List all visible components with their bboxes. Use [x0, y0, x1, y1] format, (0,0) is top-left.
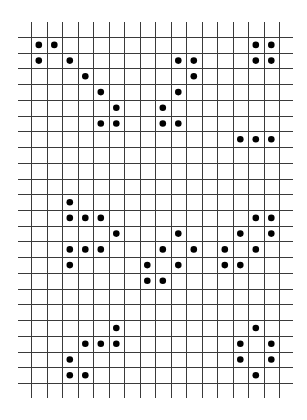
cell-dot — [160, 120, 167, 127]
cell-dot — [191, 246, 198, 253]
cell-dot — [268, 356, 275, 363]
cell-dot — [67, 215, 74, 222]
cell-dot — [191, 73, 198, 80]
cell-dot — [222, 262, 229, 269]
cell-dot — [175, 120, 182, 127]
cell-dot — [113, 325, 120, 332]
cell-dot — [253, 246, 260, 253]
cell-dot — [113, 105, 120, 112]
cell-dot — [98, 340, 105, 347]
cell-dot — [82, 73, 89, 80]
cell-dot — [222, 246, 229, 253]
pattern-top-right-block — [253, 42, 275, 64]
cell-dot — [67, 246, 74, 253]
cell-dot — [175, 57, 182, 64]
cell-dot — [160, 246, 167, 253]
cell-dot — [253, 42, 260, 49]
dot-grid-diagram — [0, 0, 307, 420]
cell-dot — [36, 57, 43, 64]
cell-dot — [67, 262, 74, 269]
cell-dot — [160, 105, 167, 112]
cell-dot — [237, 356, 244, 363]
cell-dot — [67, 356, 74, 363]
cell-dot — [82, 372, 89, 379]
cell-dot — [268, 42, 275, 49]
cell-dot — [253, 57, 260, 64]
cell-dot — [268, 230, 275, 237]
cell-dot — [67, 372, 74, 379]
cell-dot — [113, 120, 120, 127]
cell-dot — [175, 230, 182, 237]
cell-dot — [191, 57, 198, 64]
cell-dot — [82, 215, 89, 222]
cell-dot — [98, 215, 105, 222]
cell-dot — [268, 136, 275, 143]
cell-dot — [67, 57, 74, 64]
cell-dot — [98, 246, 105, 253]
cell-dot — [36, 42, 43, 49]
cell-dot — [82, 340, 89, 347]
cell-dot — [237, 136, 244, 143]
cell-dot — [237, 230, 244, 237]
cell-dot — [237, 262, 244, 269]
cell-dot — [253, 372, 260, 379]
cell-dot — [82, 246, 89, 253]
cell-dot — [113, 340, 120, 347]
cell-dot — [253, 136, 260, 143]
cell-dot — [268, 340, 275, 347]
cell-dot — [98, 120, 105, 127]
cell-dot — [51, 42, 58, 49]
cell-dot — [175, 89, 182, 96]
cell-dot — [98, 89, 105, 96]
cell-dot — [268, 57, 275, 64]
grid-lines — [18, 22, 293, 398]
cell-dot — [144, 278, 151, 285]
pattern-bottom-right — [237, 325, 275, 379]
cell-dot — [160, 278, 167, 285]
cell-dot — [113, 230, 120, 237]
cell-dot — [67, 199, 74, 206]
cell-dot — [144, 262, 151, 269]
cell-dot — [253, 325, 260, 332]
cell-dot — [253, 215, 260, 222]
cell-dot — [237, 340, 244, 347]
cell-dot — [175, 262, 182, 269]
pattern-right-row — [237, 136, 275, 143]
cell-dot — [268, 215, 275, 222]
